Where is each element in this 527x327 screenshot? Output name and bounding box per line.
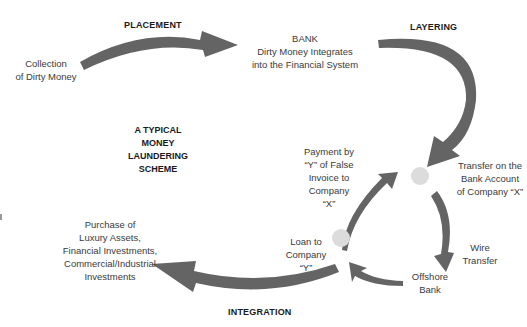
edge-mark: [0, 214, 2, 220]
loan-node: [332, 229, 350, 247]
label-payment-y: Payment by “Y” of False Invoice to Compa…: [298, 145, 360, 210]
transfer-node: [411, 167, 429, 185]
placement-arrow: [80, 31, 238, 70]
stage-integration: INTEGRATION: [228, 307, 292, 317]
label-transfer-x: Transfer on the Bank Account of Company …: [450, 159, 527, 198]
label-collection: Collection of Dirty Money: [6, 57, 86, 83]
label-loan-y: Loan to Company “Y”: [280, 235, 332, 274]
offshore-to-loan-arrow: [349, 262, 403, 286]
label-bank: BANK Dirty Money Integrates into the Fin…: [240, 32, 370, 71]
stage-layering: LAYERING: [410, 22, 457, 32]
label-offshore-bank: Offshore Bank: [405, 270, 455, 296]
layering-arrow: [378, 39, 476, 167]
scheme-title: A TYPICAL MONEY LAUNDERING SCHEME: [118, 124, 198, 176]
label-wire-transfer: Wire Transfer: [455, 241, 505, 267]
stage-placement: PLACEMENT: [124, 20, 182, 30]
wire-transfer-arrow: [431, 191, 454, 272]
label-purchase: Purchase of Luxury Assets, Financial Inv…: [45, 218, 175, 283]
